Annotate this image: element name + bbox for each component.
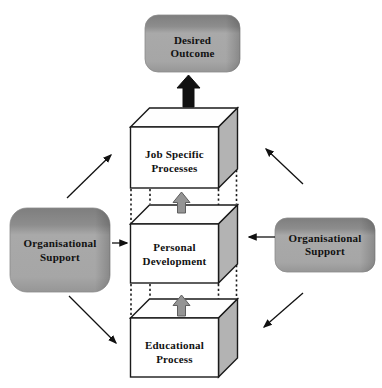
personal-development-front-face xyxy=(131,224,219,283)
desired-outcome-label-line1: Desired xyxy=(174,34,211,46)
arrow-leftsupport-down xyxy=(69,296,116,343)
left-support-node: Organisational Support xyxy=(10,208,110,292)
personal-development-label-line1: Personal xyxy=(153,241,196,253)
desired-outcome-label-line2: Outcome xyxy=(170,47,214,59)
right-support-node: Organisational Support xyxy=(275,218,375,272)
job-specific-label-line1: Job Specific xyxy=(145,148,204,160)
arrow-rightsupport-down xyxy=(264,293,303,327)
job-specific-processes-node: Job Specific Processes xyxy=(131,108,238,188)
left-support-slab-shade xyxy=(10,208,110,292)
left-support-label-line1: Organisational xyxy=(23,237,96,249)
right-support-label-line1: Organisational xyxy=(288,232,361,244)
arrow-leftsupport-up xyxy=(67,155,111,198)
left-support-label-line2: Support xyxy=(40,251,80,263)
desired-outcome-node: Desired Outcome xyxy=(145,15,240,72)
personal-development-node: Personal Development xyxy=(131,205,238,283)
right-support-label-line2: Support xyxy=(305,245,345,257)
diagram-canvas: Desired Outcome Job Specific Processes xyxy=(0,0,382,388)
job-specific-label-line2: Processes xyxy=(151,162,198,174)
educational-process-label-line1: Educational xyxy=(145,339,204,351)
personal-development-label-line2: Development xyxy=(143,255,207,267)
arrow-rightsupport-up xyxy=(266,149,303,184)
arrow-jobspecific-to-outcome xyxy=(177,75,200,107)
educational-process-label-line2: Process xyxy=(156,353,193,365)
flow-diagram: Desired Outcome Job Specific Processes xyxy=(0,0,382,388)
